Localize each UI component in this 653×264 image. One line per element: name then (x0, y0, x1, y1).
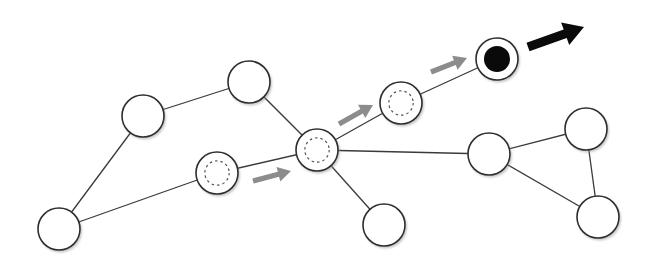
current-position-icon (484, 46, 510, 72)
edge-E-I (317, 150, 489, 154)
graph-node-J-unvisited (565, 108, 609, 153)
graph-node-G-current (476, 38, 520, 83)
graph-node-A-unvisited (38, 208, 82, 253)
walk-step-arrow-icon (338, 105, 373, 127)
graph-node-H-unvisited (363, 204, 407, 249)
graph-node-E-visited (296, 129, 340, 174)
graph-node-I-unvisited (468, 133, 512, 178)
graph-walk-diagram (0, 0, 653, 264)
node-layer (38, 38, 621, 253)
graph-node-D-visited (196, 152, 240, 197)
graph-node-F-visited (380, 82, 424, 127)
next-step-arrow-icon (527, 22, 585, 51)
graph-node-B-unvisited (122, 95, 166, 140)
graph-node-C-unvisited (228, 61, 272, 106)
edge-A-D (59, 173, 217, 229)
walk-step-arrow-icon (252, 167, 291, 183)
graph-node-K-unvisited (577, 196, 621, 241)
walk-step-arrow-icon (430, 56, 467, 75)
graph-canvas (0, 0, 653, 264)
